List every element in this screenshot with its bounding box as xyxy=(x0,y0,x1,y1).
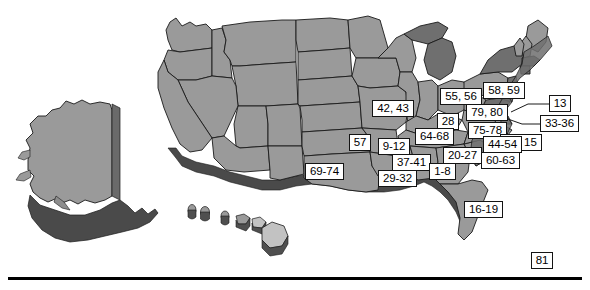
map-label-81[interactable]: 81 xyxy=(531,252,553,269)
state-hawaii xyxy=(188,205,288,257)
map-label-1-8[interactable]: 1-8 xyxy=(429,163,456,180)
map-label-58-59[interactable]: 58, 59 xyxy=(483,82,525,99)
map-label-55-56[interactable]: 55, 56 xyxy=(440,88,482,105)
map-figure: 42, 4355, 5658, 591379, 802833-3675-7864… xyxy=(0,0,590,290)
map-label-42-43[interactable]: 42, 43 xyxy=(372,100,414,117)
map-label-79-80[interactable]: 79, 80 xyxy=(466,104,508,121)
leader-line-13 xyxy=(511,104,549,112)
map-label-29-32[interactable]: 29-32 xyxy=(378,170,417,187)
state-alaska xyxy=(16,100,158,242)
map-label-44-54[interactable]: 44-54 xyxy=(483,136,522,153)
map-label-9-12[interactable]: 9-12 xyxy=(378,138,410,155)
map-label-69-74[interactable]: 69-74 xyxy=(305,163,344,180)
map-label-60-63[interactable]: 60-63 xyxy=(481,152,520,169)
map-label-20-27[interactable]: 20-27 xyxy=(443,147,482,164)
map-label-64-68[interactable]: 64-68 xyxy=(415,128,454,145)
map-label-37-41[interactable]: 37-41 xyxy=(392,154,431,171)
bottom-rule xyxy=(8,277,582,280)
map-label-33-36[interactable]: 33-36 xyxy=(540,115,579,132)
map-label-13[interactable]: 13 xyxy=(549,95,571,112)
map-label-57[interactable]: 57 xyxy=(349,134,371,151)
map-label-16-19[interactable]: 16-19 xyxy=(464,201,503,218)
